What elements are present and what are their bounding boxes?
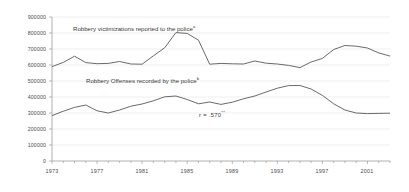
series-line-victimizations [52,33,390,68]
annotation-victimizations: Robbery victimizations reported to the p… [73,23,233,32]
ytick-label-600000: 600000 [4,62,46,68]
xtick-label-1989: 1989 [217,168,247,175]
ytick-label-700000: 700000 [4,46,46,52]
ytick-label-900000: 900000 [4,14,46,20]
ytick-label-300000: 300000 [4,110,46,116]
xtick-label-1981: 1981 [127,168,157,175]
ytick-label-500000: 500000 [4,78,46,84]
robbery-trend-chart: 900000 800000 700000 600000 500000 40000… [0,0,409,192]
annotation-correlation-footnote: ** [221,110,225,115]
annotation-correlation-text: r = .570 [199,112,221,118]
annotation-correlation: r = .570** [199,110,225,118]
ytick-label-0: 0 [4,158,46,164]
ytick-label-100000: 100000 [4,142,46,148]
annotation-offenses: Robbery Offenses recorded by the policeb [86,75,204,84]
annotation-offenses-footnote: b [197,76,199,81]
xtick-label-1977: 1977 [82,168,112,175]
xtick-label-2001: 2001 [352,168,382,175]
xtick-label-1993: 1993 [262,168,292,175]
annotation-victimizations-text: Robbery victimizations reported to the p… [73,25,193,32]
x-tick-marks [52,161,390,164]
xtick-label-1997: 1997 [307,168,337,175]
xtick-label-1985: 1985 [172,168,202,175]
ytick-label-200000: 200000 [4,126,46,132]
annotation-offenses-text: Robbery Offenses recorded by the police [86,77,197,84]
ytick-label-400000: 400000 [4,94,46,100]
xtick-label-1973: 1973 [37,168,67,175]
ytick-label-800000: 800000 [4,30,46,36]
annotation-victimizations-footnote: a [193,24,195,29]
y-tick-marks [49,17,52,161]
